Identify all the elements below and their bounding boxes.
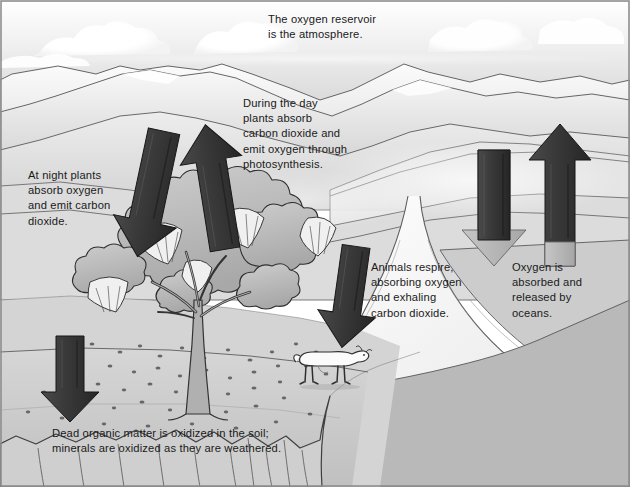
scene-illustration [0,0,630,487]
oxygen-cycle-diagram: The oxygen reservoir is the atmosphere. … [0,0,630,487]
